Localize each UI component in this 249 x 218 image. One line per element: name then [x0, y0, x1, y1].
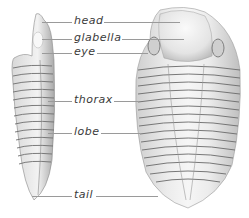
- label-eye: eye: [73, 46, 97, 58]
- right-eye: [212, 39, 224, 57]
- lobe-leader-left: [48, 133, 72, 134]
- head-leader-left: [42, 22, 72, 23]
- tail-leader-left: [32, 196, 72, 197]
- side-eye: [33, 32, 43, 48]
- label-thorax: thorax: [73, 94, 114, 106]
- trilobite-diagram: head glabella eye thorax lobe tail: [0, 0, 249, 218]
- glabella-leader-left: [42, 39, 72, 40]
- tail-leader-right: [96, 196, 158, 197]
- thorax-leader-right: [112, 101, 138, 102]
- eye-leader-right: [96, 53, 148, 54]
- thorax-leader-left: [48, 101, 72, 102]
- head-leader-right: [104, 22, 180, 23]
- head-shield: [159, 10, 213, 61]
- label-head: head: [73, 15, 104, 27]
- eye-leader-left: [42, 53, 72, 54]
- side-view: [12, 14, 55, 200]
- label-glabella: glabella: [73, 32, 122, 44]
- label-tail: tail: [73, 189, 94, 201]
- glabella-leader-right: [120, 39, 184, 40]
- trilobite-illustration: [0, 0, 249, 218]
- label-lobe: lobe: [73, 126, 101, 138]
- top-view: [136, 7, 241, 208]
- lobe-leader-right: [100, 133, 140, 134]
